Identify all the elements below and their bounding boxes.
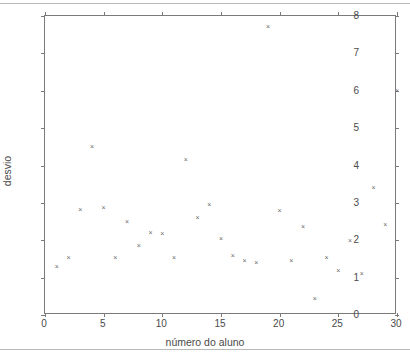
x-tick-top [397,12,398,16]
y-tick-label: 1 [345,271,359,282]
data-point [359,271,364,276]
y-tick-label: 5 [345,122,359,133]
x-tick-top [338,12,339,16]
data-point [101,205,106,210]
data-point [254,260,259,265]
y-tick [41,203,45,204]
data-point [383,222,388,227]
y-tick-right [395,128,399,129]
data-point [172,255,177,260]
y-tick-right [395,278,399,279]
x-tick-label: 25 [326,318,348,329]
y-tick [41,128,45,129]
data-point [301,224,306,229]
data-point [312,296,317,301]
data-point [395,88,400,93]
data-point [265,24,270,29]
data-point [89,144,94,149]
x-tick-top [104,12,105,16]
y-tick-label: 4 [345,159,359,170]
data-point [78,207,83,212]
data-point [324,255,329,260]
data-point [371,185,376,190]
data-point [183,157,188,162]
y-tick-label: 7 [345,47,359,58]
x-tick [221,313,222,317]
data-point [277,208,282,213]
x-tick [338,313,339,317]
y-axis-title: desvio [1,141,13,201]
y-tick-right [395,53,399,54]
x-axis-title: número do aluno [0,336,410,348]
y-tick-right [395,203,399,204]
x-tick-label: 5 [92,318,114,329]
data-point [136,243,141,248]
x-tick [397,313,398,317]
x-tick-top [221,12,222,16]
x-tick [45,313,46,317]
y-tick-label: 2 [345,234,359,245]
data-point [195,215,200,220]
data-point [207,202,212,207]
data-point [336,268,341,273]
figure-scatter-desvio: desvio número do aluno 01234567805101520… [0,0,410,360]
x-tick-label: 0 [33,318,55,329]
x-tick [280,313,281,317]
y-tick [41,278,45,279]
data-point [148,230,153,235]
y-tick-label: 8 [345,10,359,21]
x-tick [162,313,163,317]
y-tick-right [395,16,399,17]
y-tick [41,53,45,54]
x-tick-top [280,12,281,16]
data-point [242,258,247,263]
top-divider [0,3,410,4]
x-tick-label: 15 [209,318,231,329]
x-tick-label: 30 [385,318,407,329]
y-tick [41,16,45,17]
data-point [54,264,59,269]
data-point [230,253,235,258]
y-tick-right [395,240,399,241]
y-tick-label: 6 [345,84,359,95]
x-tick-label: 10 [150,318,172,329]
data-point [289,258,294,263]
y-tick [41,240,45,241]
plot-area [44,15,396,314]
data-point [66,255,71,260]
bottom-divider [0,349,410,350]
data-point [125,219,130,224]
data-point [160,231,165,236]
x-tick [104,313,105,317]
y-tick-right [395,166,399,167]
y-tick-label: 3 [345,196,359,207]
data-point [219,236,224,241]
x-tick-top [45,12,46,16]
data-point [113,255,118,260]
y-tick [41,91,45,92]
x-tick-top [162,12,163,16]
y-tick [41,166,45,167]
x-tick-label: 20 [268,318,290,329]
